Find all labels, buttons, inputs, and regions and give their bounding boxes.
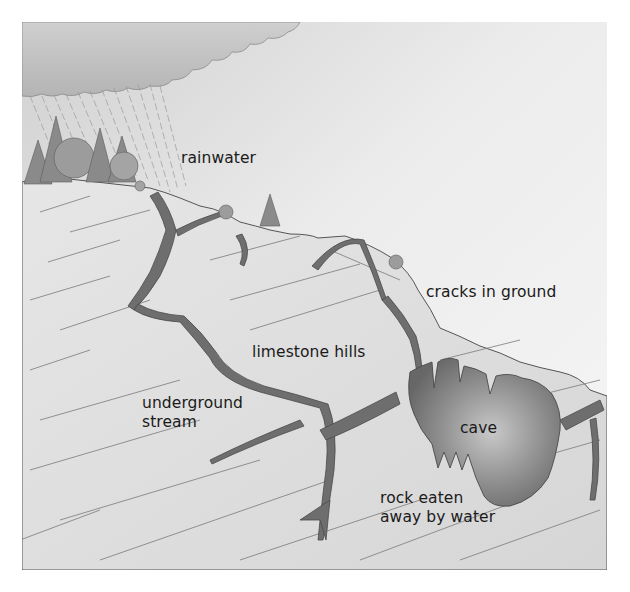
label-rock-eaten-line1: rock eaten: [380, 489, 495, 508]
label-underground-stream-line1: underground: [142, 394, 243, 413]
label-rock-eaten-away: rock eaten away by water: [380, 489, 495, 527]
label-cave: cave: [460, 419, 497, 438]
label-underground-stream: underground stream: [142, 394, 243, 432]
label-underground-stream-line2: stream: [142, 413, 243, 432]
label-limestone-hills: limestone hills: [252, 343, 366, 362]
label-rainwater: rainwater: [181, 149, 256, 168]
label-rock-eaten-line2: away by water: [380, 508, 495, 527]
label-cracks-in-ground: cracks in ground: [426, 283, 556, 302]
